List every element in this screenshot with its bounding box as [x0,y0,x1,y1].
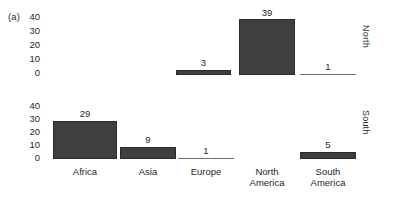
ytick-label-south-20: 20 [22,127,40,137]
xtick-label-asia: Asia [120,166,176,177]
bar-label-north-south-america: 1 [300,62,356,72]
xtick-label-europe: Europe [178,166,234,177]
bar-south-south-america [300,152,356,159]
ytick-label-north-20: 20 [22,40,40,50]
bar-north-europe [176,70,231,75]
ytick-label-north-10: 10 [22,54,40,64]
bar-south-asia [120,147,176,159]
panel-side-label-south: South [361,110,371,135]
ytick-label-north-0: 0 [22,68,40,78]
bar-chart-figure: (a) 40 30 20 10 0 3 39 1 North 40 30 20 … [0,0,394,197]
ytick-label-south-0: 0 [22,153,40,163]
xtick-label-south-america: South America [300,166,356,188]
bar-south-africa [53,121,117,159]
xtick-label-africa: Africa [53,166,117,177]
bar-north-south-america [300,74,356,75]
ytick-label-north-30: 30 [22,26,40,36]
bar-label-south-asia: 9 [120,135,176,145]
xtick-label-north-america: North America [239,166,295,188]
bar-label-south-europe: 1 [178,146,234,156]
bar-label-north-europe: 3 [176,58,231,68]
ytick-label-south-40: 40 [22,101,40,111]
ytick-label-south-10: 10 [22,140,40,150]
bar-label-south-south-america: 5 [300,140,356,150]
bar-south-europe [178,158,234,159]
panel-tag-a: (a) [8,11,20,22]
ytick-label-north-40: 40 [22,12,40,22]
ytick-label-south-30: 30 [22,114,40,124]
bar-label-south-africa: 29 [53,109,117,119]
bar-label-north-north-america: 39 [239,8,295,18]
bar-north-north-america [239,19,295,75]
panel-side-label-north: North [361,25,371,48]
